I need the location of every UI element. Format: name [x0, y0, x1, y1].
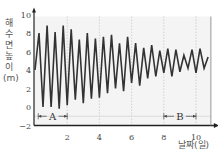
y-axis-label: 해수면 높이(m)	[3, 18, 15, 84]
y-tick-label: 6	[26, 48, 31, 57]
y-tick-label: 4	[26, 66, 31, 75]
y-tick-label: 2	[26, 85, 31, 94]
x-axis-arrow-icon	[214, 123, 218, 128]
y-tick-label: −2	[19, 122, 31, 131]
x-tick-label: 6	[129, 133, 134, 142]
x-tick-label: 8	[161, 133, 166, 142]
y-tick-label: 0	[26, 103, 31, 112]
annotation-a: A	[48, 111, 57, 122]
y-tick-label: 10	[21, 11, 31, 20]
x-axis-label: 날짜(일)	[178, 138, 209, 151]
x-tick-label: 2	[65, 133, 70, 142]
tide-chart: −20246810246810AB	[0, 0, 218, 156]
y-tick-label: 8	[26, 29, 31, 38]
x-tick-label: 4	[97, 133, 102, 142]
annotation-b: B	[176, 111, 183, 122]
y-axis-arrow-icon	[32, 8, 36, 13]
